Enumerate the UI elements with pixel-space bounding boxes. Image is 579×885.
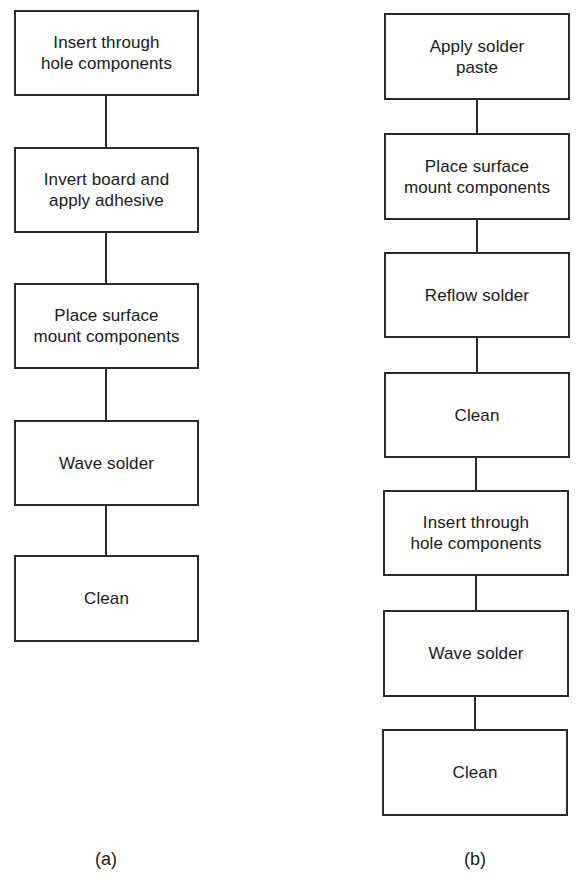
step-b-7-clean: Clean bbox=[382, 729, 568, 816]
connector-b-1-2 bbox=[476, 100, 478, 133]
step-a-2-invert-apply-adhesive: Invert board and apply adhesive bbox=[14, 147, 199, 233]
step-b-6-wave-solder: Wave solder bbox=[383, 610, 569, 697]
step-label: Wave solder bbox=[429, 643, 524, 664]
step-label: Insert through hole components bbox=[411, 512, 542, 554]
connector-a-1-2 bbox=[105, 96, 107, 147]
caption-b: (b) bbox=[464, 849, 486, 870]
step-label: Reflow solder bbox=[425, 285, 529, 306]
step-a-5-clean: Clean bbox=[14, 555, 199, 642]
step-label: Place surface mount components bbox=[33, 305, 179, 347]
connector-b-5-6 bbox=[475, 576, 477, 610]
step-label: Invert board and apply adhesive bbox=[44, 169, 169, 211]
step-a-1-insert-through-hole: Insert through hole components bbox=[14, 10, 199, 96]
step-b-3-reflow-solder: Reflow solder bbox=[384, 252, 570, 338]
connector-b-2-3 bbox=[476, 220, 478, 252]
step-label: Wave solder bbox=[59, 453, 154, 474]
step-b-5-insert-through-hole: Insert through hole components bbox=[383, 490, 569, 576]
connector-b-6-7 bbox=[474, 697, 476, 729]
step-b-4-clean: Clean bbox=[384, 372, 570, 458]
connector-b-3-4 bbox=[476, 338, 478, 372]
connector-a-2-3 bbox=[105, 233, 107, 283]
step-a-4-wave-solder: Wave solder bbox=[14, 420, 199, 506]
step-label: Clean bbox=[455, 405, 500, 426]
connector-b-4-5 bbox=[475, 458, 477, 490]
step-label: Clean bbox=[84, 588, 129, 609]
step-label: Clean bbox=[453, 762, 498, 783]
caption-a: (a) bbox=[95, 849, 117, 870]
step-a-3-place-smt: Place surface mount components bbox=[14, 283, 199, 369]
step-label: Insert through hole components bbox=[41, 32, 172, 74]
connector-a-3-4 bbox=[105, 369, 107, 420]
step-label: Place surface mount components bbox=[404, 156, 550, 198]
connector-a-4-5 bbox=[105, 506, 107, 555]
step-b-2-place-smt: Place surface mount components bbox=[384, 133, 570, 220]
step-label: Apply solder paste bbox=[430, 36, 525, 78]
step-b-1-apply-solder-paste: Apply solder paste bbox=[384, 13, 570, 100]
